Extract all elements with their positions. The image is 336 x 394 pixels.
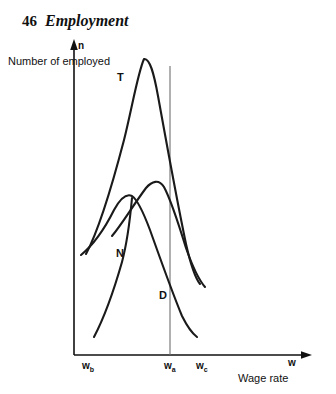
x-axis	[74, 351, 312, 359]
y-axis	[70, 39, 78, 355]
y-axis-arrowhead	[70, 39, 78, 50]
figure-container: 46 Employment n Number of employed w Wag…	[0, 0, 336, 394]
plot-svg	[0, 0, 336, 394]
x-axis-arrowhead	[301, 351, 312, 359]
curve-total-supply-T	[86, 59, 200, 284]
curve-secondary-hump	[112, 182, 205, 287]
